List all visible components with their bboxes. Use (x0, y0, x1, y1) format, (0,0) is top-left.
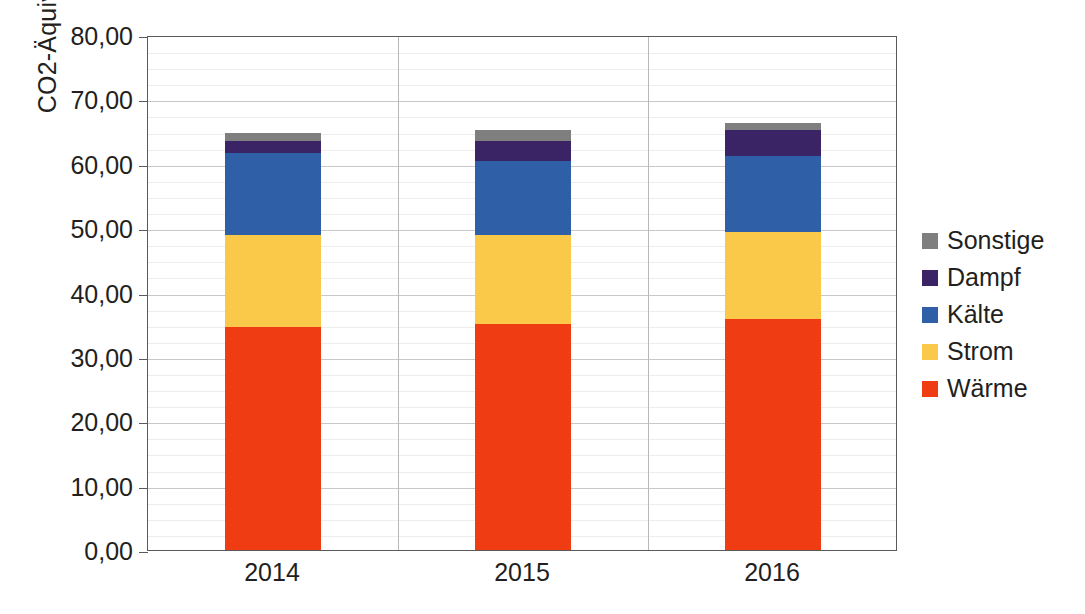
y-axis-tick-label: 50,00 (13, 217, 133, 242)
legend-swatch-icon (922, 344, 938, 360)
y-axis-tick-mark (139, 423, 148, 424)
bar-segment-kalte[interactable] (725, 156, 821, 232)
x-axis-tick-labels: 201420152016 (147, 560, 897, 600)
bar-segment-warme[interactable] (225, 327, 321, 550)
legend-label: Strom (947, 339, 1014, 364)
x-axis-tick-label: 2014 (182, 560, 362, 585)
y-axis-tick-mark (139, 295, 148, 296)
legend-label: Dampf (947, 265, 1021, 290)
gridline-vertical (398, 37, 399, 550)
legend-item[interactable]: Strom (922, 333, 1082, 370)
bar-segment-strom[interactable] (725, 232, 821, 319)
y-axis-tick-mark (139, 359, 148, 360)
bar-group[interactable] (225, 35, 321, 550)
y-axis-tick-label: 40,00 (13, 282, 133, 307)
bar-group[interactable] (725, 35, 821, 550)
y-axis-tick-label: 20,00 (13, 410, 133, 435)
chart-figure: CO2-Äquivalente [kg/m²] 80,0070,0060,005… (0, 0, 1085, 614)
bar-segment-dampf[interactable] (475, 141, 571, 161)
y-axis-tick-mark (139, 230, 148, 231)
y-axis-tick-label: 80,00 (13, 24, 133, 49)
legend-swatch-icon (922, 307, 938, 323)
bar-segment-strom[interactable] (225, 235, 321, 327)
y-axis-tick-mark (139, 166, 148, 167)
y-axis-tick-label: 70,00 (13, 88, 133, 113)
bar-segment-sonstige[interactable] (475, 130, 571, 141)
legend-item[interactable]: Dampf (922, 259, 1082, 296)
bar-segment-warme[interactable] (725, 319, 821, 550)
legend-label: Sonstige (947, 228, 1044, 253)
bar-group[interactable] (475, 35, 571, 550)
y-axis-tick-label: 0,00 (13, 539, 133, 564)
legend-item[interactable]: Wärme (922, 370, 1082, 407)
gridline-vertical (648, 37, 649, 550)
plot-area (147, 36, 897, 551)
chart-legend: SonstigeDampfKälteStromWärme (922, 222, 1082, 407)
y-axis-tick-mark (139, 552, 148, 553)
legend-swatch-icon (922, 270, 938, 286)
bar-segment-strom[interactable] (475, 235, 571, 324)
bar-segment-warme[interactable] (475, 324, 571, 550)
bar-segment-dampf[interactable] (725, 130, 821, 156)
legend-item[interactable]: Sonstige (922, 222, 1082, 259)
bar-segment-sonstige[interactable] (225, 133, 321, 141)
y-axis-tick-mark (139, 101, 148, 102)
legend-swatch-icon (922, 381, 938, 397)
y-axis-tick-mark (139, 37, 148, 38)
legend-label: Wärme (947, 376, 1028, 401)
legend-label: Kälte (947, 302, 1004, 327)
x-axis-tick-label: 2016 (682, 560, 862, 585)
bar-segment-dampf[interactable] (225, 141, 321, 154)
y-axis-tick-label: 30,00 (13, 346, 133, 371)
legend-swatch-icon (922, 233, 938, 249)
y-axis-tick-label: 10,00 (13, 475, 133, 500)
legend-item[interactable]: Kälte (922, 296, 1082, 333)
y-axis-tick-mark (139, 488, 148, 489)
bar-segment-sonstige[interactable] (725, 123, 821, 131)
y-axis-tick-labels: 80,0070,0060,0050,0040,0030,0020,0010,00… (0, 36, 133, 551)
bar-segment-kalte[interactable] (475, 161, 571, 235)
x-axis-tick-label: 2015 (432, 560, 612, 585)
y-axis-tick-label: 60,00 (13, 153, 133, 178)
bar-segment-kalte[interactable] (225, 153, 321, 235)
